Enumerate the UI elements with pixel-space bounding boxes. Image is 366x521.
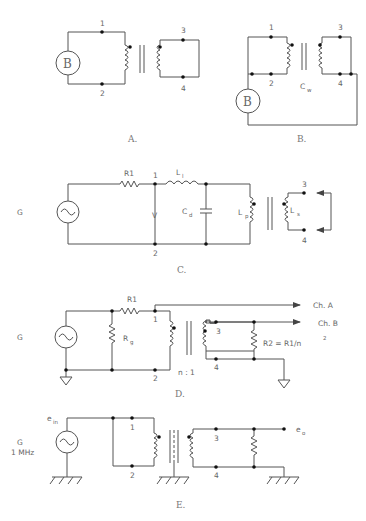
svg-text:V: V [152, 211, 158, 220]
svg-text:in: in [53, 419, 59, 425]
resistor-r2-icon [251, 322, 257, 359]
figure-caption: E. [176, 500, 186, 510]
svg-text:2: 2 [269, 79, 274, 88]
svg-text:2: 2 [153, 249, 158, 258]
svg-text:G: G [17, 208, 23, 217]
chassis-ground-icon [50, 477, 82, 484]
resistor-r1-icon [120, 181, 166, 187]
svg-text:s: s [297, 211, 300, 217]
svg-text:B: B [243, 95, 252, 109]
primary-coil-icon [170, 321, 173, 356]
svg-text:2: 2 [153, 374, 158, 383]
figure-a: B 1 2 3 4 A. [56, 19, 199, 144]
svg-text:R1: R1 [127, 295, 137, 304]
resistor-load-icon [251, 429, 257, 467]
circuit-diagrams: B 1 2 3 4 A. B [0, 0, 366, 521]
svg-text:2: 2 [100, 89, 105, 98]
svg-text:l: l [182, 173, 184, 179]
primary-coil-icon [250, 197, 253, 228]
svg-text:3: 3 [302, 180, 307, 189]
svg-text:L: L [290, 206, 295, 215]
figure-caption: D. [175, 389, 185, 399]
svg-text:1: 1 [269, 23, 274, 32]
svg-text:d: d [189, 212, 193, 218]
source-label: B [63, 57, 72, 71]
svg-text:3: 3 [214, 434, 219, 443]
resistor-rg-icon [109, 311, 115, 370]
svg-text:4: 4 [214, 363, 219, 372]
svg-text:e: e [47, 414, 52, 423]
svg-text:2: 2 [130, 471, 135, 480]
figure-b: B 1 2 3 4 C w B. [236, 23, 357, 144]
svg-text:e: e [296, 425, 301, 434]
svg-text:C: C [182, 207, 187, 216]
svg-text:R1: R1 [124, 169, 134, 178]
svg-text:2: 2 [323, 335, 327, 341]
svg-text:R: R [123, 334, 128, 343]
ground-icon [60, 377, 72, 385]
svg-text:w: w [307, 87, 312, 93]
svg-text:p: p [245, 213, 249, 220]
svg-text:g: g [130, 339, 134, 346]
svg-text:1: 1 [153, 315, 158, 324]
channel-a-arrow [155, 305, 300, 311]
chassis-ground-icon [157, 477, 189, 484]
inductor-icon [166, 181, 250, 197]
figure-caption: C. [177, 265, 187, 275]
figure-d: G R1 Ch. A R g Ch. B [17, 295, 338, 399]
svg-text:4: 4 [214, 471, 219, 480]
svg-text:1: 1 [100, 19, 105, 28]
ground-icon [278, 380, 290, 388]
turns-ratio-label: n : 1 [178, 368, 195, 377]
chassis-ground-icon [267, 477, 299, 484]
resistor-r1-icon [120, 308, 155, 314]
svg-text:4: 4 [302, 236, 307, 245]
svg-text:L: L [238, 208, 243, 217]
frequency-label: 1 MHz [11, 448, 34, 457]
svg-text:4: 4 [338, 79, 343, 88]
primary-coil-icon [125, 45, 128, 72]
r2-equation: R2 = R1/n [263, 339, 302, 348]
svg-text:1: 1 [130, 423, 135, 432]
svg-text:C: C [300, 82, 305, 91]
secondary-coil-icon [157, 45, 160, 72]
svg-text:4: 4 [181, 84, 186, 93]
figure-caption: A. [127, 134, 137, 144]
svg-text:3: 3 [216, 327, 221, 336]
svg-text:G: G [17, 333, 23, 342]
channel-b-label: Ch. B [318, 319, 338, 328]
svg-text:L: L [176, 168, 181, 177]
figure-caption: B. [297, 134, 307, 144]
svg-text:o: o [302, 430, 306, 436]
primary-coil-icon [154, 433, 157, 461]
svg-text:G: G [17, 438, 23, 447]
figure-e: e in G 1 MHz e o 1 2 3 [11, 414, 306, 510]
figure-c: G R1 L l V C d L p L s [17, 168, 331, 275]
svg-text:3: 3 [181, 26, 186, 35]
svg-text:1: 1 [153, 171, 158, 180]
svg-text:3: 3 [338, 23, 343, 32]
channel-a-label: Ch. A [313, 301, 334, 310]
